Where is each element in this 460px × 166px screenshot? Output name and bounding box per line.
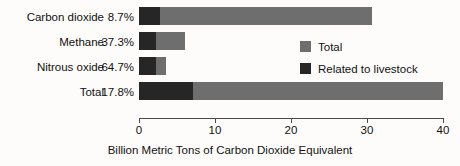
x-axis-tick	[367, 118, 368, 123]
category-label-nitrous-oxide: Nitrous oxide	[0, 62, 104, 74]
x-axis-title: Billion Metric Tons of Carbon Dioxide Eq…	[0, 144, 460, 156]
x-axis-tick-label: 20	[276, 124, 306, 136]
percent-label-total: 17.8%	[90, 87, 134, 99]
legend-item-total: Total	[300, 38, 418, 55]
percent-label-nitrous-oxide: 64.7%	[90, 62, 134, 74]
x-axis-tick-label: 40	[428, 124, 458, 136]
category-label-methane: Methane	[0, 37, 104, 49]
x-axis-tick-label: 30	[352, 124, 382, 136]
x-axis-tick	[443, 118, 444, 123]
legend-swatch-icon	[300, 41, 311, 52]
bar-segment-livestock	[139, 32, 156, 50]
category-label-total: Total	[0, 87, 104, 99]
legend: Total Related to livestock	[300, 38, 418, 82]
bar-segment-livestock	[139, 7, 160, 25]
bar-segment-total	[139, 7, 372, 25]
percent-label-methane: 37.3%	[90, 37, 134, 49]
stacked-bar-chart: Carbon dioxide Methane Nitrous oxide Tot…	[0, 0, 460, 166]
category-label-carbon-dioxide: Carbon dioxide	[0, 12, 104, 24]
x-axis-tick-label: 0	[124, 124, 154, 136]
legend-item-livestock: Related to livestock	[300, 60, 418, 77]
legend-label-total: Total	[318, 41, 342, 53]
legend-swatch-icon	[300, 63, 311, 74]
x-axis-tick-label: 10	[200, 124, 230, 136]
x-axis-tick	[215, 118, 216, 123]
percent-label-carbon-dioxide: 8.7%	[90, 12, 134, 24]
legend-label-livestock: Related to livestock	[318, 63, 418, 75]
x-axis-tick	[291, 118, 292, 123]
bar-segment-livestock	[139, 57, 156, 75]
x-axis-tick	[139, 118, 140, 123]
bar-segment-livestock	[139, 82, 193, 100]
